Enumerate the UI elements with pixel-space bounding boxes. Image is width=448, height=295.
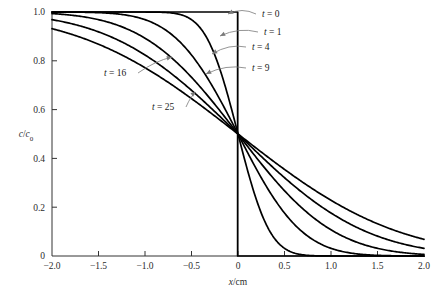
x-axis-title: x/cm (228, 277, 248, 287)
y-tick-label: 0.6 (33, 105, 45, 115)
x-tick-label: −2.0 (43, 261, 60, 271)
x-tick-label: −0.5 (183, 261, 200, 271)
y-tick-label: 0.4 (33, 154, 45, 164)
diffusion-concentration-chart: 00.20.40.60.81.0 −2.0−1.5−1.0−0.500.51.0… (0, 0, 448, 295)
y-tick-label: 0.2 (33, 203, 45, 213)
curve-label-t-25: t = 25 (152, 102, 174, 112)
curve-label-t-9: t = 9 (252, 63, 270, 73)
curve-label-t-0: t = 0 (262, 9, 280, 19)
x-tick-label: 0.5 (279, 261, 291, 271)
curve-label-t-16: t = 16 (104, 68, 126, 78)
x-tick-label: 0 (236, 261, 241, 271)
x-axis-tick-labels: −2.0−1.5−1.0−0.500.51.01.52.0 (43, 261, 430, 271)
y-tick-label: 0 (40, 251, 45, 261)
x-tick-label: 1.5 (372, 261, 384, 271)
x-tick-label: −1.5 (90, 261, 107, 271)
chart-background (0, 0, 448, 295)
x-tick-label: 1.0 (325, 261, 337, 271)
curve-label-t-4: t = 4 (252, 42, 270, 52)
x-tick-label: −1.0 (136, 261, 153, 271)
y-tick-label: 0.8 (33, 56, 45, 66)
x-tick-label: 2.0 (418, 261, 430, 271)
curve-label-t-1: t = 1 (264, 27, 282, 37)
y-tick-label: 1.0 (33, 7, 45, 17)
